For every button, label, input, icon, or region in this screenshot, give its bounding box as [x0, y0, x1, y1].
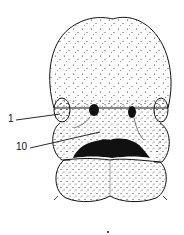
head-outline — [50, 17, 171, 108]
label-1: 1 — [8, 114, 14, 124]
embryo-face-diagram: 1 10 — [0, 0, 184, 235]
neck-tick-left — [54, 196, 58, 200]
nasal-pit-right — [128, 106, 136, 118]
maxillary-prominence-right — [154, 98, 168, 122]
nasal-pit-left — [89, 104, 99, 116]
neck-tick-right — [163, 196, 167, 200]
bottom-dot — [107, 231, 109, 233]
label-10: 10 — [16, 142, 27, 152]
diagram-svg — [0, 0, 184, 235]
leader-line-1 — [16, 114, 60, 120]
maxillary-prominence-left — [54, 98, 70, 122]
mandibular-region — [56, 159, 166, 202]
